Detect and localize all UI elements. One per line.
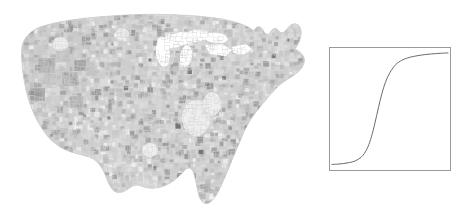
inset-svg (329, 47, 451, 171)
logistic-curve-inset-panel (329, 47, 451, 171)
inset-plot-frame (330, 48, 451, 171)
map-svg (0, 0, 325, 216)
us-county-choropleth-map (0, 0, 325, 216)
figure-canvas (0, 0, 467, 216)
